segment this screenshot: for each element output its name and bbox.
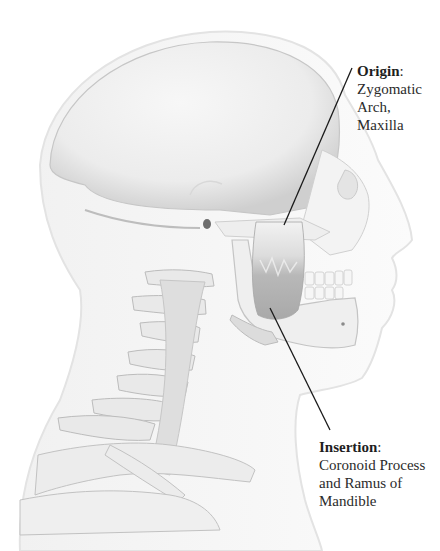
- insertion-separator: :: [377, 439, 381, 455]
- insertion-title: Insertion: [319, 439, 377, 455]
- origin-label: Origin: Zygomatic Arch, Maxilla: [357, 62, 440, 134]
- origin-title: Origin: [357, 63, 400, 79]
- masseter-muscle: [252, 222, 304, 319]
- insertion-line-2: and Ramus of: [319, 474, 440, 492]
- anatomy-diagram: Origin: Zygomatic Arch, Maxilla Insertio…: [0, 0, 440, 551]
- ear-canal: [203, 219, 211, 229]
- insertion-line-3: Mandible: [319, 492, 440, 510]
- insertion-line-1: Coronoid Process: [319, 456, 440, 474]
- origin-separator: :: [400, 63, 404, 79]
- upper-teeth: [305, 270, 352, 285]
- origin-line-1: Zygomatic: [357, 80, 440, 98]
- mental-foramen: [341, 322, 345, 326]
- lower-teeth: [305, 287, 343, 299]
- insertion-label: Insertion: Coronoid Process and Ramus of…: [319, 438, 440, 510]
- origin-line-2: Arch, Maxilla: [357, 98, 440, 134]
